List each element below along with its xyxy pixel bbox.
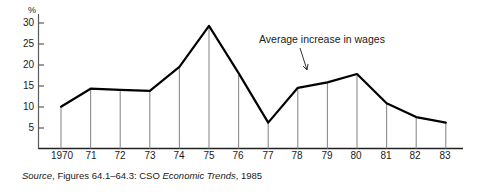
- series-line-average-increase-in-wages: [61, 26, 446, 123]
- chart-plot-area: [0, 0, 478, 195]
- source-prefix: Source: [22, 170, 52, 181]
- source-suffix: , 1985: [236, 170, 262, 181]
- source-publication: Economic Trends: [162, 170, 235, 181]
- annotation-leader-line: [300, 48, 308, 70]
- data-stems: [61, 26, 446, 149]
- source-caption: Source, Figures 64.1–64.3: CSO Economic …: [22, 170, 262, 181]
- source-body: , Figures 64.1–64.3: CSO: [52, 170, 162, 181]
- chart-figure: % 30 25 20 15 10 5 1970 71 72 73 74 75 7…: [0, 0, 478, 195]
- y-axis-ticks: [39, 23, 45, 128]
